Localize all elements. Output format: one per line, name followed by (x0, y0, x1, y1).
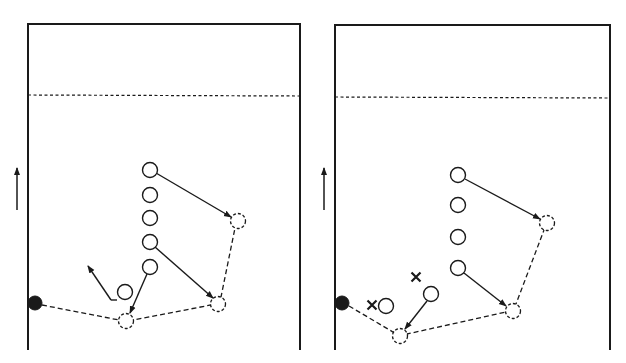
court-panel-left (17, 24, 300, 350)
movement-arrow (465, 179, 540, 219)
movement-arrow (155, 247, 213, 298)
player-icon (451, 198, 466, 213)
player-icon (451, 230, 466, 245)
target-position-icon (393, 329, 408, 344)
player-icon (451, 168, 466, 183)
player-icon (143, 188, 158, 203)
movement-arrow (156, 173, 231, 217)
player-icon (143, 235, 158, 250)
attack-line (28, 95, 300, 96)
defender-cross-icon (368, 301, 377, 310)
player-icon (424, 287, 439, 302)
defender-cross-icon (412, 273, 421, 282)
player-icon (143, 260, 158, 275)
ball-icon (335, 296, 349, 310)
player-icon (143, 211, 158, 226)
movement-arrow (405, 301, 427, 329)
target-position-icon (506, 304, 521, 319)
pass-path (349, 230, 544, 334)
attack-line (335, 97, 610, 98)
movement-arrow (88, 266, 111, 300)
player-icon (118, 285, 133, 300)
ball-icon (28, 296, 42, 310)
target-position-icon (231, 214, 246, 229)
target-position-icon (119, 314, 134, 329)
court-panel-right (324, 25, 610, 350)
drill-diagram (0, 0, 626, 363)
diagram-canvas (0, 0, 626, 363)
movement-arrow (464, 273, 506, 306)
target-position-icon (211, 297, 226, 312)
target-position-icon (540, 216, 555, 231)
player-icon (379, 299, 394, 314)
court-boundary (28, 24, 300, 350)
player-icon (451, 261, 466, 276)
pass-path (42, 228, 235, 320)
player-icon (143, 163, 158, 178)
